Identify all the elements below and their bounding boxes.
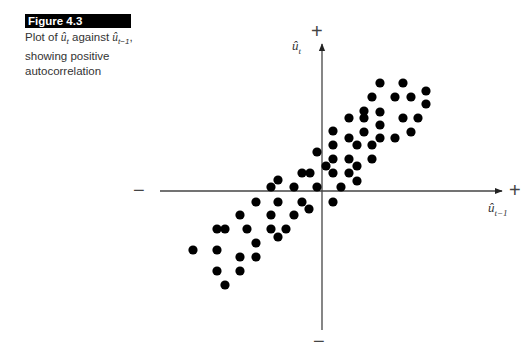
data-point: [289, 182, 298, 191]
data-point: [375, 78, 384, 87]
data-point: [251, 197, 260, 206]
data-point: [328, 140, 337, 149]
data-point: [312, 182, 321, 191]
data-point: [297, 168, 306, 177]
data-point: [367, 92, 376, 101]
data-point: [242, 224, 251, 233]
data-point: [273, 197, 282, 206]
data-point: [220, 224, 229, 233]
data-point: [328, 154, 337, 163]
x-negative-sign: −: [133, 180, 145, 200]
x-positive-sign: +: [509, 180, 521, 200]
data-point: [328, 168, 337, 177]
data-point: [344, 154, 353, 163]
data-point: [390, 92, 399, 101]
data-point: [344, 113, 353, 122]
data-point: [375, 107, 384, 116]
data-point: [321, 161, 330, 170]
data-point: [289, 210, 298, 219]
data-point: [304, 204, 313, 213]
data-point: [367, 140, 376, 149]
data-point: [312, 147, 321, 156]
data-point: [375, 133, 384, 142]
data-point: [266, 224, 275, 233]
data-point: [220, 280, 229, 289]
data-point: [359, 113, 368, 122]
data-point: [421, 99, 430, 108]
y-negative-sign: −: [313, 331, 325, 351]
data-point: [212, 266, 221, 275]
data-point: [251, 238, 260, 247]
data-point: [359, 127, 368, 136]
y-axis-label: ût: [292, 38, 301, 56]
data-point: [352, 161, 361, 170]
data-point: [281, 224, 290, 233]
data-point: [352, 176, 361, 185]
data-point: [212, 224, 221, 233]
data-point: [266, 182, 275, 191]
data-point: [328, 197, 337, 206]
data-point: [406, 92, 415, 101]
x-axis-label: ût−1: [488, 200, 508, 218]
y-positive-sign: +: [311, 21, 323, 41]
data-point: [398, 78, 407, 87]
data-point: [235, 266, 244, 275]
data-point: [367, 154, 376, 163]
data-points: [188, 78, 430, 289]
data-point: [305, 168, 314, 177]
data-point: [212, 245, 221, 254]
data-point: [344, 133, 353, 142]
data-point: [235, 252, 244, 261]
data-point: [406, 127, 415, 136]
data-point: [273, 232, 282, 241]
data-point: [398, 113, 407, 122]
data-point: [273, 175, 282, 184]
data-point: [297, 197, 306, 206]
data-point: [328, 126, 337, 135]
data-point: [390, 133, 399, 142]
data-point: [251, 252, 260, 261]
data-point: [375, 120, 384, 129]
data-point: [413, 113, 422, 122]
data-point: [344, 168, 353, 177]
data-point: [266, 210, 275, 219]
scatter-plot: [0, 0, 526, 353]
data-point: [421, 86, 430, 95]
data-point: [336, 182, 345, 191]
data-point: [235, 210, 244, 219]
data-point: [352, 140, 361, 149]
data-point: [188, 245, 197, 254]
